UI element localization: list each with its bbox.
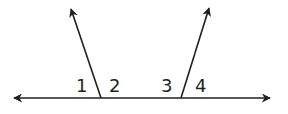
angle-label-4: 4 <box>195 75 206 96</box>
angle-label-1: 1 <box>76 75 87 96</box>
angle-label-2: 2 <box>109 75 120 96</box>
angle-diagram: 1 2 3 4 <box>0 0 288 114</box>
angle-label-3: 3 <box>161 75 172 96</box>
